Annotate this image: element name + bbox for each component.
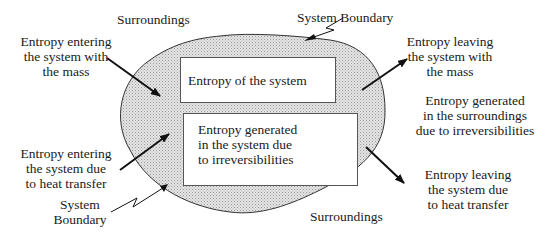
label-entropy-leaving-heat: Entropy leaving the system due to heat t… [408,167,528,212]
label-system-boundary-bottom: System Boundary [40,197,120,227]
label-entropy-leaving-mass: Entropy leaving the system with the mass [390,34,510,79]
box-entropy-generated-system: Entropy generated in the system due to i… [183,113,358,186]
label-entropy-generated-surroundings: Entropy generated in the surroundings du… [405,93,545,138]
box-entropy-of-system: Entropy of the system [180,57,336,103]
arrow-leaving-heat [366,147,404,183]
label-entropy-entering-heat: Entropy entering the system due to heat … [14,146,118,191]
box-entropy-generated-system-text: Entropy generated in the system due to i… [198,122,297,167]
label-surroundings-top: Surroundings [117,12,190,27]
label-system-boundary-top: System Boundary [297,10,393,25]
box-entropy-of-system-text: Entropy of the system [188,73,307,88]
label-surroundings-bottom: Surroundings [310,209,383,224]
label-entropy-entering-mass: Entropy entering the system with the mas… [14,34,118,79]
